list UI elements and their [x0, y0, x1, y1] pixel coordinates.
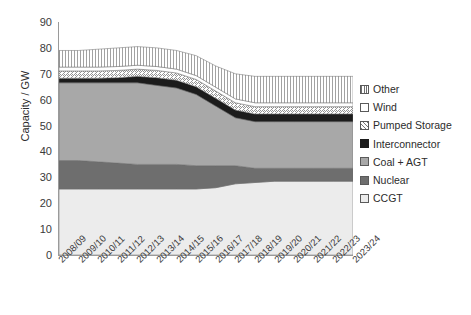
- y-axis-tick: 90: [26, 17, 52, 28]
- legend-swatch-icon: [360, 103, 369, 112]
- y-axis-tick: 40: [26, 146, 52, 157]
- legend-item[interactable]: Coal + AGT: [360, 153, 470, 171]
- legend-swatch-icon: [360, 157, 369, 166]
- plot-area: [58, 22, 353, 256]
- legend-item[interactable]: Other: [360, 80, 470, 98]
- y-axis-tick: 70: [26, 69, 52, 80]
- legend-swatch-icon: [360, 121, 369, 130]
- legend-item[interactable]: Wind: [360, 98, 470, 116]
- y-axis-tick: 50: [26, 121, 52, 132]
- y-axis-tick: 30: [26, 172, 52, 183]
- legend-swatch-icon: [360, 139, 369, 148]
- legend-item[interactable]: Nuclear: [360, 171, 470, 189]
- legend-item-label: Wind: [373, 101, 397, 113]
- legend-swatch-icon: [360, 85, 369, 94]
- legend-item[interactable]: Interconnector: [360, 135, 470, 153]
- legend-swatch-icon: [360, 176, 369, 185]
- plot-inner: [59, 22, 353, 255]
- legend-item-label: Interconnector: [373, 138, 440, 150]
- x-axis-tick-labels: 2008/092009/102010/112011/122012/132013/…: [58, 257, 352, 315]
- y-axis-tick: 10: [26, 224, 52, 235]
- y-axis-tick-labels: 9080706050403020100: [22, 22, 52, 255]
- legend-item-label: Coal + AGT: [373, 156, 428, 168]
- chart-legend: OtherWindPumped StorageInterconnectorCoa…: [360, 80, 470, 207]
- stacked-area-chart: Capacity / GW 9080706050403020100 2008/0…: [0, 0, 471, 315]
- legend-item[interactable]: Pumped Storage: [360, 116, 470, 134]
- y-axis-tick: 60: [26, 95, 52, 106]
- legend-item-label: Other: [373, 83, 399, 95]
- legend-item-label: Nuclear: [373, 174, 409, 186]
- y-axis-tick: 80: [26, 43, 52, 54]
- stacked-area-series: [59, 22, 353, 255]
- legend-item-label: Pumped Storage: [373, 119, 452, 131]
- y-axis-tick: 0: [26, 250, 52, 261]
- legend-item-label: CCGT: [373, 192, 403, 204]
- legend-swatch-icon: [360, 194, 369, 203]
- legend-item[interactable]: CCGT: [360, 189, 470, 207]
- y-axis-tick: 20: [26, 198, 52, 209]
